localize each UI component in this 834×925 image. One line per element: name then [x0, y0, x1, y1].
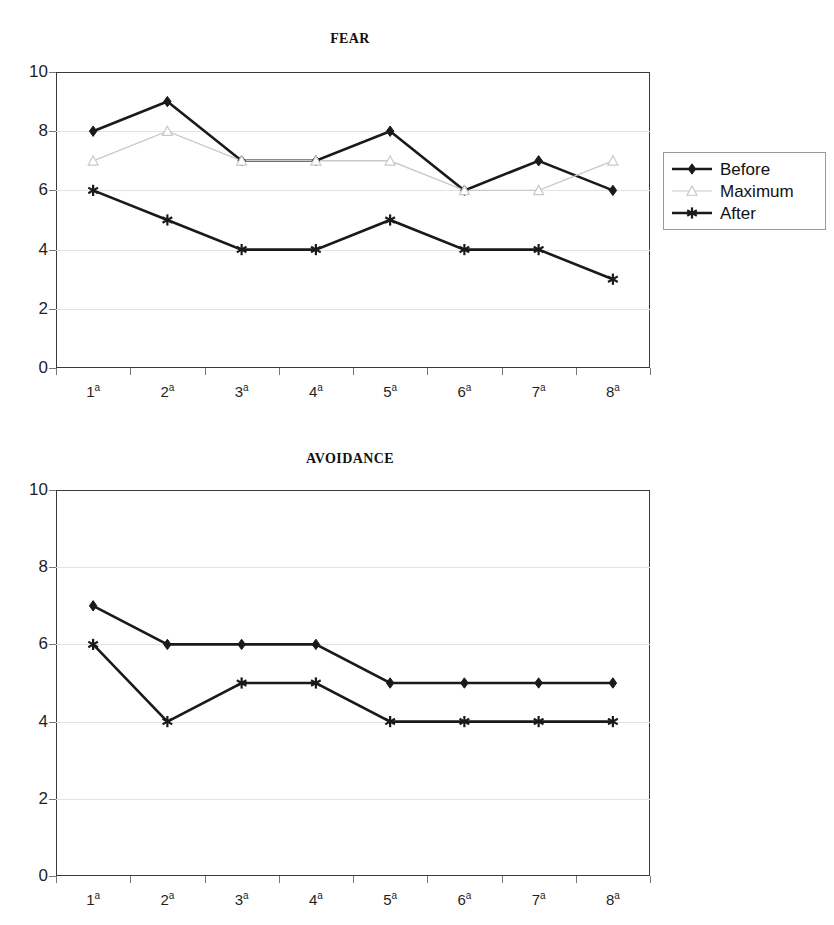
data-point-before-2 — [164, 639, 171, 649]
y-tick-mark-2 — [49, 309, 56, 310]
x-tick-label-2: 2a — [137, 892, 197, 907]
data-point-maximum-2 — [162, 126, 172, 135]
legend-swatch-maximum — [670, 182, 714, 200]
y-tick-label-0: 0 — [8, 359, 48, 376]
x-tick-label-1: 1a — [63, 892, 123, 907]
y-tick-label-4: 4 — [8, 241, 48, 258]
legend-item-maximum[interactable]: Maximum — [670, 180, 817, 202]
x-tick-mark-5 — [427, 876, 428, 883]
y-tick-label-2: 2 — [8, 790, 48, 807]
legend-item-before[interactable]: Before — [670, 158, 817, 180]
y-tick-label-4: 4 — [8, 713, 48, 730]
x-tick-mark-0 — [56, 876, 57, 883]
x-tick-mark-4 — [353, 876, 354, 883]
x-tick-label-5: 5a — [360, 384, 420, 399]
x-tick-label-7: 7a — [509, 892, 569, 907]
data-point-before-6 — [461, 678, 468, 688]
fear-chart-block: FEAR 0246810 1a2a3a4a5a6a7a8a BeforeMaxi… — [0, 0, 834, 430]
x-tick-label-2: 2a — [137, 384, 197, 399]
y-tick-label-6: 6 — [8, 181, 48, 198]
legend-sample-open-triangle-icon — [670, 182, 714, 200]
data-point-maximum-1 — [88, 156, 98, 165]
data-point-maximum-8 — [608, 156, 618, 165]
data-point-before-4 — [312, 639, 319, 649]
x-tick-mark-6 — [502, 876, 503, 883]
data-point-before-1 — [89, 126, 96, 136]
avoidance-chart-title: AVOIDANCE — [0, 451, 700, 467]
data-point-before-8 — [609, 678, 616, 688]
data-point-before-7 — [535, 156, 542, 166]
y-tick-label-6: 6 — [8, 635, 48, 652]
x-tick-label-6: 6a — [434, 384, 494, 399]
y-tick-label-10: 10 — [8, 481, 48, 498]
y-tick-label-8: 8 — [8, 558, 48, 575]
legend-sample-asterisk-icon — [670, 204, 714, 222]
fear-series-layer — [56, 72, 650, 368]
fear-plot-area — [56, 72, 650, 368]
y-tick-mark-10 — [49, 490, 56, 491]
x-tick-mark-7 — [576, 368, 577, 375]
y-tick-label-10: 10 — [8, 63, 48, 80]
data-point-before-5 — [386, 678, 393, 688]
y-tick-label-8: 8 — [8, 122, 48, 139]
x-tick-mark-5 — [427, 368, 428, 375]
y-tick-mark-0 — [49, 368, 56, 369]
avoidance-chart-block: AVOIDANCE 0246810 1a2a3a4a5a6a7a8a Befor… — [0, 430, 834, 925]
x-tick-mark-4 — [353, 368, 354, 375]
x-tick-label-4: 4a — [286, 384, 346, 399]
legend-label-after: After — [720, 205, 756, 222]
x-tick-mark-0 — [56, 368, 57, 375]
x-tick-mark-1 — [130, 876, 131, 883]
y-tick-mark-6 — [49, 644, 56, 645]
x-tick-label-8: 8a — [583, 892, 643, 907]
y-tick-mark-0 — [49, 876, 56, 877]
legend-swatch-after — [670, 204, 714, 222]
x-tick-mark-8 — [650, 368, 651, 375]
x-tick-label-3: 3a — [212, 384, 272, 399]
x-tick-mark-1 — [130, 368, 131, 375]
legend-item-after[interactable]: After — [670, 202, 817, 224]
fear-chart-title: FEAR — [0, 31, 700, 47]
data-point-before-7 — [535, 678, 542, 688]
x-tick-mark-2 — [205, 876, 206, 883]
data-point-before-8 — [609, 185, 616, 195]
x-tick-label-3: 3a — [212, 892, 272, 907]
data-point-before-3 — [238, 639, 245, 649]
x-tick-label-8: 8a — [583, 384, 643, 399]
y-tick-mark-10 — [49, 72, 56, 73]
x-tick-mark-6 — [502, 368, 503, 375]
y-tick-mark-4 — [49, 250, 56, 251]
x-tick-label-6: 6a — [434, 892, 494, 907]
avoidance-series-layer — [56, 490, 650, 876]
y-tick-mark-8 — [49, 131, 56, 132]
legend-label-maximum: Maximum — [720, 183, 794, 200]
y-tick-mark-4 — [49, 722, 56, 723]
legend-sample-filled-diamond-icon — [670, 160, 714, 178]
x-tick-mark-7 — [576, 876, 577, 883]
y-tick-label-0: 0 — [8, 867, 48, 884]
x-tick-mark-3 — [279, 368, 280, 375]
y-tick-mark-2 — [49, 799, 56, 800]
x-tick-label-1: 1a — [63, 384, 123, 399]
legend-label-before: Before — [720, 161, 770, 178]
x-tick-label-4: 4a — [286, 892, 346, 907]
x-tick-label-7: 7a — [509, 384, 569, 399]
x-tick-mark-8 — [650, 876, 651, 883]
fear-legend[interactable]: BeforeMaximumAfter — [663, 152, 826, 230]
y-tick-mark-8 — [49, 567, 56, 568]
data-point-before-1 — [89, 601, 96, 611]
avoidance-plot-area — [56, 490, 650, 876]
legend-swatch-before — [670, 160, 714, 178]
x-tick-mark-2 — [205, 368, 206, 375]
y-tick-mark-6 — [49, 190, 56, 191]
y-tick-label-2: 2 — [8, 300, 48, 317]
x-tick-mark-3 — [279, 876, 280, 883]
x-tick-label-5: 5a — [360, 892, 420, 907]
legend-marker-filled-diamond-icon — [688, 164, 695, 174]
